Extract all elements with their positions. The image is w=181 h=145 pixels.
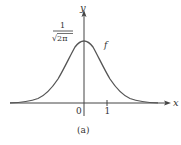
peak-label-numerator: 1: [60, 21, 65, 30]
x-tick-label-1: 1: [105, 106, 111, 116]
x-axis-label: x: [173, 97, 179, 108]
origin-label: 0: [76, 106, 82, 116]
normal-distribution-figure: y x 0 1 f 1 √2π (a): [0, 0, 181, 145]
figure-caption: (a): [77, 125, 89, 135]
y-axis-label: y: [79, 2, 86, 13]
function-label: f: [103, 40, 109, 50]
peak-label-denominator: √2π: [52, 34, 67, 43]
